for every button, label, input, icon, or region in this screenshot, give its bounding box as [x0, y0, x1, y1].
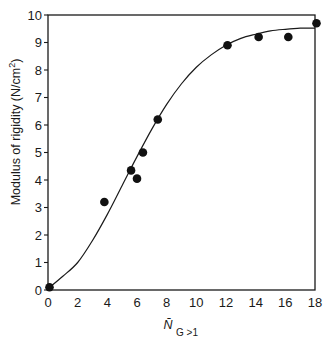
x-tick-label: 10 [189, 295, 203, 310]
data-point [284, 33, 293, 42]
x-tick-label: 4 [104, 295, 111, 310]
y-axis-ticks: 012345678910 [28, 8, 48, 298]
y-tick-label: 6 [35, 118, 42, 133]
x-tick-label: 16 [278, 295, 292, 310]
x-axis-label: N̄ [163, 318, 173, 332]
x-axis-tick-labels: 024681012141618 [44, 295, 322, 310]
y-tick-label: 7 [35, 90, 42, 105]
y-tick-label: 9 [35, 35, 42, 50]
y-tick-label: 1 [35, 255, 42, 270]
data-point [45, 283, 54, 292]
data-point [254, 33, 263, 42]
y-tick-label: 5 [35, 145, 42, 160]
y-tick-label: 8 [35, 63, 42, 78]
data-point [312, 19, 321, 28]
x-tick-label: 12 [219, 295, 233, 310]
x-axis-label-subscript: G >1 [176, 327, 198, 338]
data-point [139, 148, 148, 157]
chart: 012345678910 024681012141618 Modulus of … [0, 0, 332, 344]
y-tick-label: 4 [35, 173, 42, 188]
x-tick-label: 0 [44, 295, 51, 310]
y-tick-label: 0 [35, 283, 42, 298]
y-axis-label: Modulus of rigidity (N/cm2) [7, 59, 23, 206]
y-tick-label: 10 [28, 8, 42, 23]
x-tick-label: 18 [308, 295, 322, 310]
x-tick-label: 6 [133, 295, 140, 310]
data-point [133, 174, 142, 183]
fitted-curve [48, 28, 315, 289]
plot-frame [48, 15, 315, 290]
data-point [153, 115, 162, 124]
y-tick-label: 2 [35, 228, 42, 243]
data-point [223, 41, 232, 50]
y-axis-label-main: Modulus of rigidity (N/cm [9, 68, 23, 206]
x-tick-label: 14 [248, 295, 262, 310]
x-tick-label: 8 [163, 295, 170, 310]
y-tick-label: 3 [35, 200, 42, 215]
data-point [100, 198, 109, 207]
x-tick-label: 2 [74, 295, 81, 310]
y-axis-label-close: ) [9, 59, 23, 63]
data-point [127, 166, 136, 175]
